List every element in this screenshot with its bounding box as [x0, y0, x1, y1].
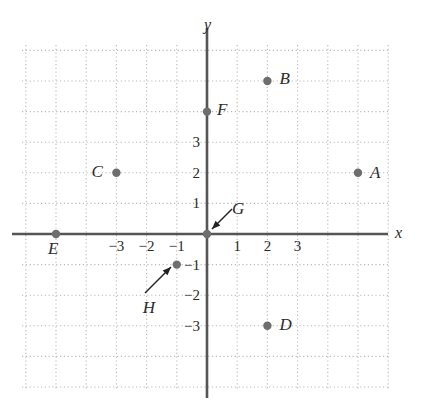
y-tick-label-neg2: −2	[184, 288, 200, 303]
leader-arrow-h	[145, 267, 171, 293]
x-tick-label-1: 1	[233, 239, 241, 254]
x-axis-label: x	[395, 225, 402, 241]
data-point-a	[354, 169, 362, 177]
y-tick-label-neg3: −3	[184, 318, 200, 333]
leader-arrow-g	[212, 209, 232, 229]
coordinate-plane-figure: y x −3−2−1123321−1−2−3 ABCDEFGH	[0, 0, 426, 410]
data-point-c	[112, 169, 120, 177]
axes-group	[12, 28, 388, 398]
point-label-a: A	[370, 164, 380, 181]
x-tick-label-3: 3	[294, 239, 302, 254]
annotation-arrows-group	[145, 209, 232, 293]
data-point-h	[173, 260, 181, 268]
data-point-f	[203, 107, 211, 115]
point-label-d: D	[279, 316, 291, 333]
data-point-b	[263, 77, 271, 85]
plot-canvas	[0, 0, 426, 410]
x-tick-label-2: 2	[264, 239, 272, 254]
x-tick-label-neg3: −3	[108, 239, 124, 254]
point-label-c: C	[91, 163, 102, 180]
point-label-e: E	[48, 240, 58, 257]
data-point-d	[263, 322, 271, 330]
data-point-e	[52, 230, 60, 238]
point-label-f: F	[217, 101, 227, 118]
y-tick-label-1: 1	[193, 196, 201, 211]
y-axis-label: y	[204, 17, 211, 33]
y-tick-label-neg1: −1	[184, 257, 200, 272]
x-tick-label-neg1: −1	[169, 239, 185, 254]
point-label-b: B	[279, 70, 289, 87]
point-label-g: G	[232, 200, 244, 217]
data-point-g	[203, 230, 211, 238]
y-tick-label-3: 3	[193, 135, 201, 150]
point-label-h: H	[143, 299, 155, 316]
y-tick-label-2: 2	[193, 165, 201, 180]
x-tick-label-neg2: −2	[139, 239, 155, 254]
